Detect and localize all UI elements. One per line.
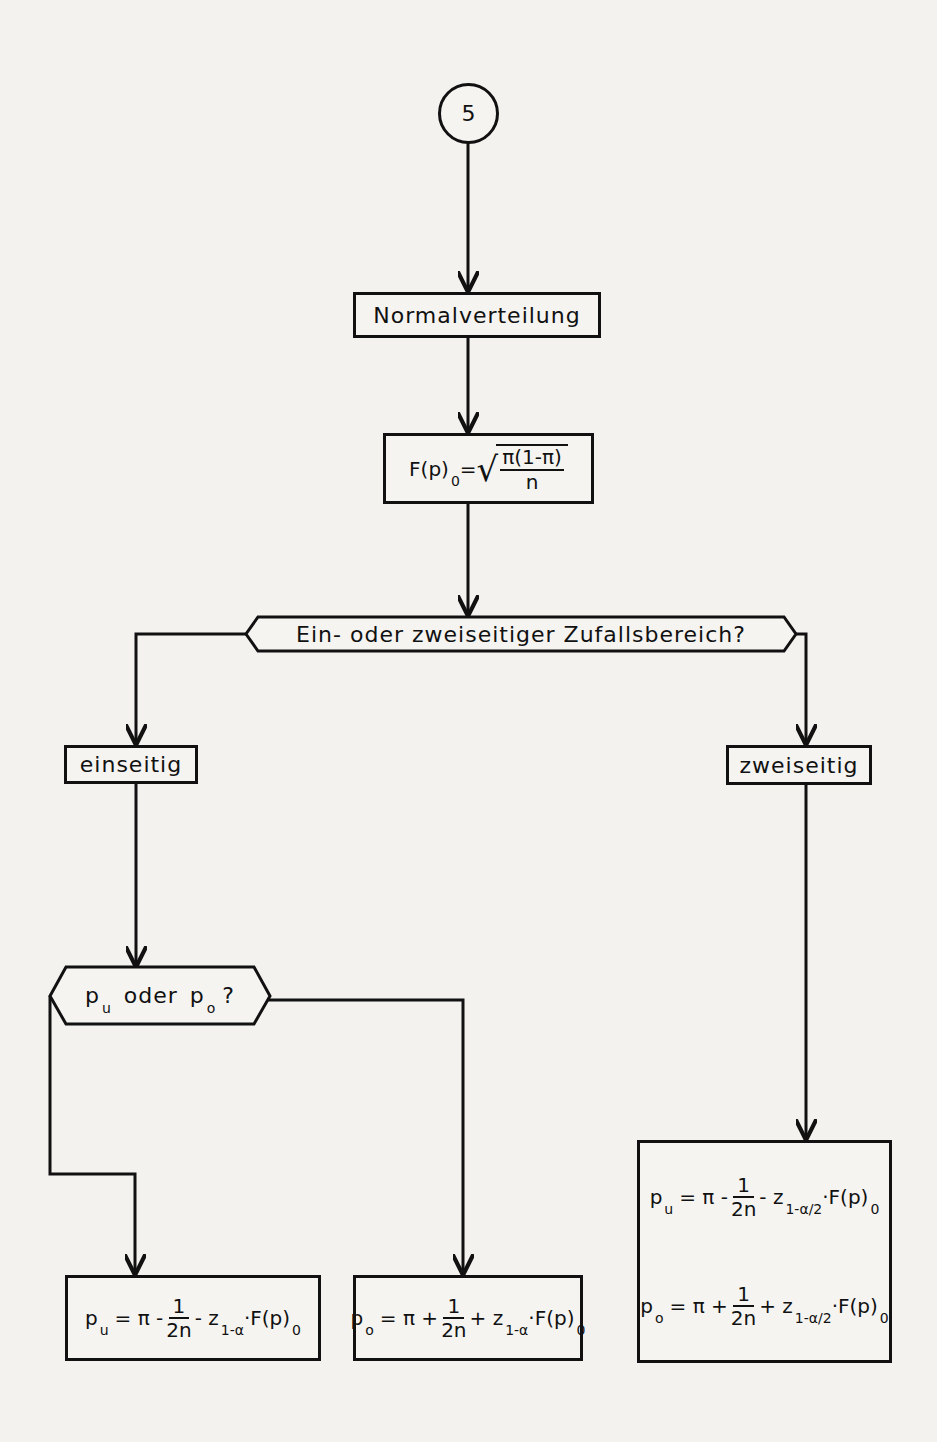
two-sided-formulas-box: pu = π - 12n - z1-α/2 ·F(p)0 po = π + 12…: [637, 1140, 892, 1363]
std-error-box: F(p)0 = √ π(1-π) n: [383, 433, 594, 504]
one-sided-box: einseitig: [64, 745, 198, 784]
two-sided-label: zweiseitig: [739, 753, 858, 778]
arrow-decision-to-einseitig: [136, 634, 246, 743]
upper-one-sided-formula: po = π + 12n + z1-α ·F(p)0: [351, 1295, 586, 1341]
distribution-label: Normalverteilung: [373, 303, 580, 328]
decision-sides-label: Ein- oder zweiseitiger Zufallsbereich?: [258, 617, 784, 652]
two-sided-upper-formula: po = π + 12n + z1-α/2 ·F(p)0: [640, 1283, 889, 1329]
lower-one-sided-formula: pu = π - 12n - z1-α ·F(p)0: [85, 1295, 301, 1341]
arrow-bound-to-upper-formula: [268, 1000, 463, 1273]
lower-one-sided-box: pu = π - 12n - z1-α ·F(p)0: [65, 1275, 321, 1361]
std-error-formula: F(p)0 = √ π(1-π) n: [409, 444, 568, 494]
two-sided-lower-formula: pu = π - 12n - z1-α/2 ·F(p)0: [650, 1174, 880, 1220]
connector-label: 5: [462, 101, 476, 126]
square-root: √ π(1-π) n: [477, 444, 568, 494]
arrow-bound-to-lower-formula: [50, 996, 135, 1273]
arrow-decision-to-zweiseitig: [790, 634, 806, 743]
decision-bound-label: pu oder po ?: [66, 967, 254, 1024]
upper-one-sided-box: po = π + 12n + z1-α ·F(p)0: [353, 1275, 583, 1361]
one-sided-label: einseitig: [80, 752, 182, 777]
connector-circle: 5: [438, 83, 499, 144]
distribution-box: Normalverteilung: [353, 292, 601, 338]
two-sided-box: zweiseitig: [726, 745, 872, 785]
